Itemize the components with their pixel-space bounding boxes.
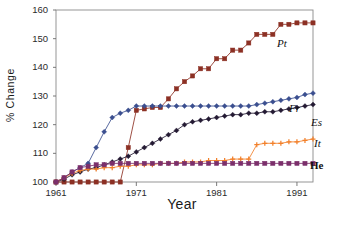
series-label-it: It — [314, 138, 321, 149]
x-axis-title-text: Year — [167, 196, 197, 212]
x-axis-title: Year — [52, 196, 312, 212]
series-label-he: He — [310, 160, 323, 171]
chart-container: % Change 160150140130120110100 196119711… — [0, 0, 338, 225]
x-axis-tick-labels: 1961197119811991 — [0, 0, 338, 225]
series-label-fr: Fr — [289, 103, 300, 114]
series-label-pt: Pt — [277, 38, 287, 49]
series-label-es: Es — [311, 117, 322, 128]
